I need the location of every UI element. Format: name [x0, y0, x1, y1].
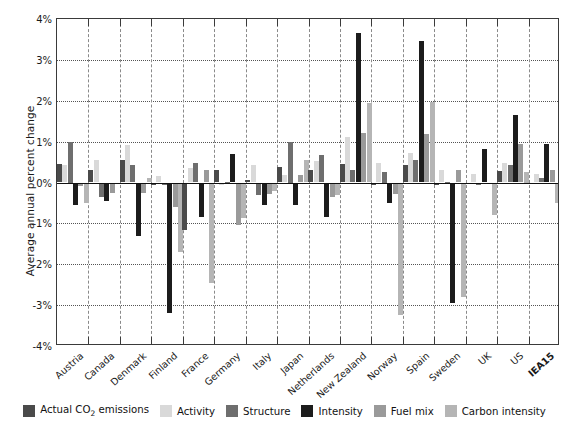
- x-tick-mark: [183, 19, 184, 26]
- bar: [308, 170, 313, 182]
- bar: [450, 183, 455, 304]
- x-tick-mark: [88, 337, 89, 344]
- legend-item[interactable]: Fuel mix: [374, 405, 434, 417]
- x-tick-mark: [529, 337, 530, 344]
- legend-swatch-icon: [445, 405, 457, 417]
- y-tick-label: 0%: [36, 177, 52, 188]
- bar: [84, 183, 89, 203]
- x-tick-mark: [340, 19, 341, 26]
- bar: [387, 183, 392, 203]
- bar: [534, 174, 539, 182]
- bar: [382, 172, 387, 182]
- legend-item[interactable]: Actual CO2 emissions: [23, 404, 149, 418]
- bar: [262, 183, 267, 205]
- legend-label: Structure: [243, 406, 290, 417]
- x-tick-label: Finland: [147, 350, 180, 381]
- x-tick-mark: [371, 19, 372, 26]
- x-tick-label: Spain: [404, 350, 431, 376]
- bar: [403, 165, 408, 183]
- y-tick-label: 2%: [36, 95, 52, 106]
- bar: [62, 165, 67, 182]
- bar: [293, 183, 298, 205]
- bar: [267, 183, 272, 194]
- x-tick-mark: [277, 19, 278, 26]
- y-tick-label: 3%: [36, 54, 52, 65]
- x-tick-mark: [246, 337, 247, 344]
- legend-item[interactable]: Structure: [226, 405, 290, 417]
- x-tick-label: IEA15: [526, 350, 556, 379]
- bar: [125, 145, 130, 183]
- bar: [367, 103, 372, 183]
- y-gridline: [57, 101, 558, 102]
- y-tick-label: 4%: [36, 14, 52, 25]
- y-tick-label: 1%: [36, 136, 52, 147]
- chart-legend: Actual CO2 emissionsActivityStructureInt…: [0, 404, 569, 418]
- bar: [110, 183, 115, 193]
- bar: [413, 160, 418, 182]
- bar: [508, 165, 513, 182]
- legend-label: Carbon intensity: [462, 406, 546, 417]
- y-tick-label: -3%: [33, 300, 52, 311]
- x-tick-mark: [434, 337, 435, 344]
- x-tick-mark: [214, 19, 215, 26]
- bar: [57, 164, 62, 182]
- x-tick-label: Japan: [278, 350, 305, 376]
- plot-inner: [57, 19, 558, 344]
- legend-label: Actual CO2 emissions: [40, 404, 149, 418]
- x-tick-mark: [309, 19, 310, 26]
- bar: [167, 183, 172, 314]
- x-tick-label: Austria: [53, 350, 86, 381]
- x-tick-mark: [214, 337, 215, 344]
- legend-item[interactable]: Intensity: [301, 405, 362, 417]
- category-separator: [183, 19, 184, 344]
- bar: [256, 183, 261, 195]
- x-tick-mark: [403, 337, 404, 344]
- bar: [393, 183, 398, 194]
- bar: [456, 170, 461, 182]
- bar: [335, 183, 340, 195]
- bar: [298, 175, 303, 182]
- bar: [277, 167, 282, 183]
- bar: [241, 183, 246, 219]
- legend-swatch-icon: [23, 405, 35, 417]
- legend-swatch-icon: [226, 405, 238, 417]
- bar: [73, 183, 78, 205]
- y-gridline: [57, 142, 558, 143]
- bar: [524, 172, 529, 182]
- x-tick-mark: [88, 19, 89, 26]
- x-tick-mark: [309, 337, 310, 344]
- bar: [513, 115, 518, 182]
- bar: [345, 137, 350, 183]
- bar: [68, 142, 73, 183]
- bar: [482, 149, 487, 183]
- bar: [136, 183, 141, 236]
- legend-label: Activity: [177, 406, 215, 417]
- bar: [502, 163, 507, 183]
- bar: [88, 170, 93, 182]
- bar: [340, 164, 345, 182]
- bar: [324, 183, 329, 218]
- x-tick-label: Norway: [365, 350, 399, 383]
- legend-item[interactable]: Activity: [160, 405, 215, 417]
- bar: [319, 155, 324, 183]
- bar: [173, 183, 178, 208]
- x-tick-label: Italy: [251, 350, 274, 372]
- legend-item[interactable]: Carbon intensity: [445, 405, 546, 417]
- bar: [272, 183, 277, 191]
- bar: [230, 154, 235, 183]
- x-tick-mark: [183, 337, 184, 344]
- bar: [518, 144, 523, 183]
- bar: [236, 183, 241, 226]
- y-gridline: [57, 60, 558, 61]
- bar: [99, 183, 104, 197]
- legend-label: Intensity: [318, 406, 362, 417]
- y-tick-label: -2%: [33, 259, 52, 270]
- chart-figure: Average annual percent change 4%3%2%1%0%…: [0, 0, 569, 437]
- bar: [288, 142, 293, 183]
- y-tick-label: -1%: [33, 218, 52, 229]
- x-tick-mark: [466, 19, 467, 26]
- bar: [356, 33, 361, 182]
- bar: [471, 174, 476, 183]
- x-tick-mark: [434, 19, 435, 26]
- bar: [314, 161, 319, 182]
